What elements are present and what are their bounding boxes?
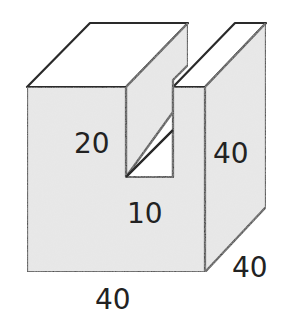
label-width: 40 bbox=[95, 283, 131, 316]
label-slot-width: 10 bbox=[127, 197, 163, 230]
front-face bbox=[27, 87, 205, 272]
slotted-block-diagram: 20 40 10 40 40 bbox=[0, 0, 286, 326]
label-depth: 40 bbox=[232, 251, 268, 284]
label-height: 40 bbox=[213, 137, 249, 170]
label-slot-depth: 20 bbox=[74, 127, 110, 160]
